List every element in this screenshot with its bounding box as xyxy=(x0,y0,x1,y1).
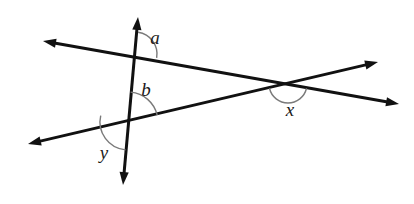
upper-line-start-arrowhead xyxy=(43,39,57,48)
angle-x-label: x xyxy=(286,100,294,119)
angle-b-label: b xyxy=(141,80,151,99)
lines-group xyxy=(28,17,399,185)
vertical-transversal-end-arrowhead xyxy=(120,172,129,185)
geometry-figure: abyx xyxy=(0,0,414,204)
vertical-transversal-start-arrowhead xyxy=(132,17,141,30)
angle-y-label: y xyxy=(100,143,108,162)
lower-line xyxy=(35,64,371,143)
upper-line-end-arrowhead xyxy=(385,97,399,106)
lower-line-start-arrowhead xyxy=(28,137,42,146)
lower-line-end-arrowhead xyxy=(364,60,378,69)
vertical-transversal xyxy=(124,24,138,178)
geometry-canvas xyxy=(0,0,414,204)
upper-line xyxy=(50,42,392,103)
angle-a-label: a xyxy=(150,28,160,47)
